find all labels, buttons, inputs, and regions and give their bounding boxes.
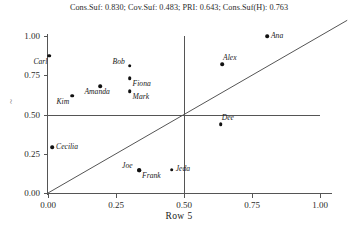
x-axis-label: Row 5: [0, 211, 358, 221]
data-point-label: Amanda: [84, 87, 109, 96]
data-point[interactable]: [128, 77, 132, 81]
x-tick-mark: [320, 194, 321, 198]
x-tick-mark: [252, 194, 253, 198]
scatter-plot-figure: Cons.Suf: 0.830; Cov.Suf: 0.483; PRI: 0.…: [0, 0, 358, 234]
x-tick-label: 0.00: [28, 200, 68, 210]
data-point-label: Cecilia: [56, 142, 78, 151]
data-point[interactable]: [50, 146, 54, 150]
y-tick-label: 0.75: [0, 70, 40, 80]
y-tick-label: 1.00: [0, 31, 40, 41]
data-point-label: Jeda: [176, 164, 190, 173]
y-tick-label: 0.50: [0, 110, 40, 120]
data-point-label: Alex: [223, 53, 237, 62]
data-point-label: Fiona: [133, 79, 151, 88]
data-point[interactable]: [137, 168, 141, 172]
data-point-label: Ana: [271, 31, 283, 40]
plot-area: CarlKimAmandaBobFionaMarkAlexAnaDeeCecil…: [48, 36, 320, 193]
x-tick-mark: [116, 194, 117, 198]
x-tick-mark: [48, 194, 49, 198]
data-point[interactable]: [170, 168, 174, 172]
data-point-label: Kim: [56, 97, 69, 106]
x-axis-spine: [46, 193, 332, 194]
x-tick-label: 0.50: [164, 200, 204, 210]
data-point-label: Joe: [122, 161, 133, 170]
y-tick-label: 0.00: [0, 188, 40, 198]
x-tick-label: 0.75: [232, 200, 272, 210]
data-point[interactable]: [220, 62, 224, 66]
data-point-label: Mark: [133, 92, 149, 101]
data-point[interactable]: [219, 122, 223, 126]
data-point[interactable]: [128, 89, 132, 93]
data-point-label: Carl: [33, 57, 47, 66]
data-point[interactable]: [48, 54, 52, 58]
x-tick-label: 1.00: [300, 200, 340, 210]
data-point[interactable]: [128, 64, 132, 68]
data-point[interactable]: [71, 94, 75, 98]
x-tick-label: 0.25: [96, 200, 136, 210]
chart-title: Cons.Suf: 0.830; Cov.Suf: 0.483; PRI: 0.…: [0, 3, 358, 12]
data-point-label: Dee: [222, 113, 234, 122]
data-point-label: Bob: [113, 57, 125, 66]
data-point-label: Frank: [142, 171, 161, 180]
x-tick-mark: [184, 194, 185, 198]
y-tick-label: 0.25: [0, 149, 40, 159]
y-axis-label: ~: [6, 99, 16, 104]
data-point[interactable]: [265, 34, 269, 38]
